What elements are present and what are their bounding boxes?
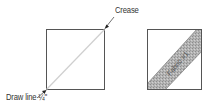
crease-label: Crease (115, 5, 139, 15)
draw-line-label: Draw line ¼" (6, 92, 47, 102)
left-square-group (37, 17, 114, 98)
crease-arrowhead-icon (105, 25, 110, 30)
